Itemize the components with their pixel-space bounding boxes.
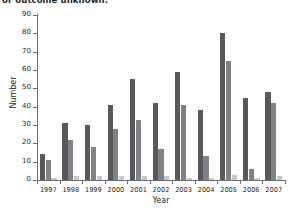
bar-series-3-2001: [142, 176, 147, 180]
y-tick-mark: [33, 33, 37, 34]
x-axis-line: [37, 180, 285, 181]
bar-series-2-2001: [136, 120, 141, 181]
y-tick-mark: [33, 52, 37, 53]
bar-series-3-2005: [232, 175, 237, 181]
bar-series-2-1999: [91, 147, 96, 180]
bar-series-2-2000: [113, 129, 118, 180]
y-tick-mark: [33, 162, 37, 163]
y-tick-mark: [33, 15, 37, 16]
x-tick-mark: [195, 180, 196, 184]
bar-series-2-2006: [249, 169, 254, 180]
bar-series-3-1998: [74, 176, 79, 180]
x-axis-title: Year: [37, 196, 285, 205]
y-axis-line: [37, 14, 38, 181]
x-tick-mark: [285, 180, 286, 184]
plot-area: 0102030405060708090 19971998199920002001…: [0, 0, 291, 211]
x-tick-mark: [37, 180, 38, 184]
y-tick-mark: [33, 70, 37, 71]
y-tick-mark: [33, 88, 37, 89]
y-tick-mark: [33, 125, 37, 126]
x-tick-mark: [172, 180, 173, 184]
bar-series-3-2004: [209, 178, 214, 180]
bar-series-3-1997: [51, 178, 56, 180]
bar-series-3-2000: [119, 176, 124, 180]
bar-series-1-2007: [265, 92, 270, 180]
bar-series-1-2005: [220, 33, 225, 180]
bar-series-1-2001: [130, 79, 135, 180]
bar-series-2-1997: [46, 160, 51, 180]
x-tick-mark: [105, 180, 106, 184]
bar-series-1-2003: [175, 72, 180, 180]
bar-series-3-1999: [97, 176, 102, 180]
x-tick-label: 2007: [254, 186, 291, 194]
y-tick-label: 10: [1, 158, 31, 165]
y-tick-label: 80: [1, 29, 31, 36]
bar-series-2-1998: [68, 140, 73, 180]
x-tick-mark: [127, 180, 128, 184]
bar-series-2-2007: [271, 103, 276, 180]
y-tick-label: 20: [1, 139, 31, 146]
x-tick-mark: [82, 180, 83, 184]
y-tick-label: 90: [1, 11, 31, 18]
x-tick-mark: [150, 180, 151, 184]
y-tick-mark: [33, 143, 37, 144]
bar-series-3-2003: [187, 178, 192, 180]
y-axis-title: Number: [9, 63, 18, 123]
bar-series-2-2004: [203, 156, 208, 180]
bar-series-2-2005: [226, 61, 231, 180]
x-tick-mark: [262, 180, 263, 184]
x-tick-mark: [240, 180, 241, 184]
x-tick-mark: [217, 180, 218, 184]
y-tick-label: 70: [1, 48, 31, 55]
chart-figure: or outcome unknown. 0102030405060708090 …: [0, 0, 291, 211]
bar-series-1-2004: [198, 110, 203, 180]
bar-series-3-2002: [164, 176, 169, 180]
bar-series-3-2006: [254, 178, 259, 180]
bar-series-1-1997: [40, 154, 45, 180]
bar-series-3-2007: [277, 176, 282, 180]
bar-series-2-2003: [181, 105, 186, 180]
bar-series-1-1998: [62, 123, 67, 180]
bar-series-1-2006: [243, 98, 248, 181]
x-tick-mark: [60, 180, 61, 184]
y-tick-label: 0: [1, 176, 31, 183]
bar-series-1-2002: [153, 103, 158, 180]
y-tick-mark: [33, 107, 37, 108]
bar-series-2-2002: [158, 149, 163, 180]
bar-series-1-1999: [85, 125, 90, 180]
bar-series-1-2000: [108, 105, 113, 180]
